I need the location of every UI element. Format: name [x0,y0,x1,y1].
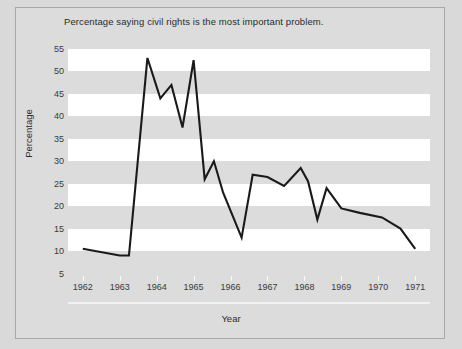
x-tick-mark [378,276,379,281]
y-tick-label: 5 [24,269,64,279]
x-tick-label: 1966 [221,282,241,292]
plot-area [68,40,430,278]
x-tick-label: 1962 [73,282,93,292]
chart-title: Percentage saying civil rights is the mo… [64,16,324,27]
x-tick-label: 1968 [294,282,314,292]
x-tick-mark [415,276,416,281]
x-tick-mark [83,276,84,281]
y-tick-label: 25 [24,179,64,189]
x-axis-line [68,302,430,304]
x-tick-label: 1963 [110,282,130,292]
x-tick-label: 1967 [257,282,277,292]
x-axis-label: Year [16,313,446,324]
x-tick-mark [341,276,342,281]
x-tick-label: 1965 [184,282,204,292]
x-tick-label: 1964 [147,282,167,292]
x-tick-mark [231,276,232,281]
x-tick-label: 1970 [368,282,388,292]
chart-figure: Percentage saying civil rights is the mo… [15,7,445,339]
y-tick-label: 45 [24,89,64,99]
y-tick-label: 15 [24,224,64,234]
x-tick-mark [304,276,305,281]
y-axis-ticks: 510152025303540455055 [16,40,64,278]
y-tick-label: 35 [24,134,64,144]
y-tick-label: 50 [24,66,64,76]
y-tick-label: 20 [24,201,64,211]
data-line [83,58,415,256]
y-tick-label: 10 [24,246,64,256]
x-axis-ticks: 1962196319641965196619671968196919701971 [68,282,430,296]
data-line-svg [68,40,430,278]
x-tick-mark [267,276,268,281]
y-tick-label: 55 [24,44,64,54]
y-tick-label: 30 [24,156,64,166]
x-tick-label: 1971 [405,282,425,292]
x-tick-mark [157,276,158,281]
x-tick-label: 1969 [331,282,351,292]
x-tick-mark [120,276,121,281]
y-tick-label: 40 [24,111,64,121]
x-tick-mark [194,276,195,281]
